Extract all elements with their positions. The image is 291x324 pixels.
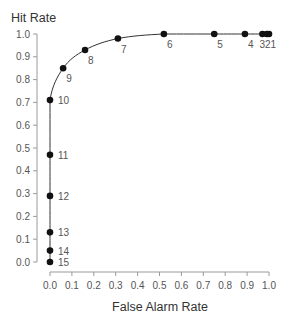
- y-tick-label: 0.7: [16, 97, 30, 108]
- data-point-5: [211, 31, 218, 38]
- y-tick-label: 0.4: [16, 165, 30, 176]
- data-point-7: [115, 35, 122, 42]
- x-tick-label: 0.5: [153, 280, 167, 291]
- data-point-15: [47, 259, 54, 266]
- y-tick-label: 0.1: [16, 234, 30, 245]
- data-point-11: [47, 152, 54, 159]
- y-tick-label: 0.2: [16, 211, 30, 222]
- point-label-5: 5: [217, 39, 223, 50]
- data-point-8: [82, 47, 89, 54]
- data-point-1: [266, 31, 273, 38]
- data-point-4: [242, 31, 249, 38]
- x-tick-label: 0.6: [174, 280, 188, 291]
- point-label-6: 6: [167, 39, 173, 50]
- point-label-9: 9: [66, 73, 72, 84]
- point-label-14: 14: [58, 246, 70, 257]
- y-tick-label: 0.0: [16, 257, 30, 268]
- y-tick-label: 1.0: [16, 29, 30, 40]
- x-tick-label: 0.1: [65, 280, 79, 291]
- x-tick-label: 0.0: [43, 280, 57, 291]
- point-label-8: 8: [88, 55, 94, 66]
- point-label-15: 15: [58, 257, 70, 268]
- data-point-6: [161, 31, 168, 38]
- y-axis-title: Hit Rate: [11, 11, 56, 25]
- point-label-4: 4: [248, 39, 254, 50]
- y-tick-label: 0.9: [16, 51, 30, 62]
- point-label-12: 12: [58, 191, 70, 202]
- y-tick-label: 0.6: [16, 120, 30, 131]
- y-tick-label: 0.3: [16, 188, 30, 199]
- point-label-13: 13: [58, 227, 70, 238]
- y-tick-label: 0.8: [16, 74, 30, 85]
- y-axis: 0.00.10.20.30.40.50.60.70.80.91.0: [16, 29, 37, 268]
- y-tick-label: 0.5: [16, 143, 30, 154]
- x-tick-label: 0.2: [87, 280, 101, 291]
- point-label-321: 321: [259, 39, 276, 50]
- x-tick-label: 0.3: [109, 280, 123, 291]
- point-label-10: 10: [58, 95, 70, 106]
- point-label-11: 11: [58, 150, 69, 161]
- data-point-10: [47, 97, 54, 104]
- x-tick-label: 0.7: [196, 280, 210, 291]
- data-points: 151413121110987654321: [47, 31, 277, 268]
- point-label-7: 7: [121, 44, 127, 55]
- data-point-13: [47, 229, 54, 236]
- x-tick-label: 0.8: [218, 280, 232, 291]
- x-axis-title: False Alarm Rate: [112, 300, 208, 314]
- x-tick-label: 0.4: [131, 280, 145, 291]
- roc-chart: Hit Rate 0.00.10.20.30.40.50.60.70.80.91…: [0, 0, 291, 324]
- data-point-9: [60, 65, 67, 72]
- roc-curve-line: [50, 34, 269, 262]
- data-point-14: [47, 247, 54, 254]
- x-tick-label: 1.0: [262, 280, 276, 291]
- x-axis: 0.00.10.20.30.40.50.60.70.80.91.0: [43, 272, 276, 291]
- x-tick-label: 0.9: [240, 280, 254, 291]
- data-point-12: [47, 193, 54, 200]
